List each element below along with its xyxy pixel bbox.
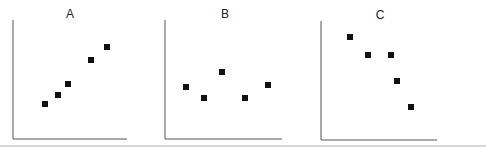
data-point-marker — [242, 95, 248, 101]
panel-a-title: A — [66, 7, 74, 21]
panel-b-title: B — [221, 7, 229, 21]
data-point-marker — [88, 57, 94, 63]
panel-b: B — [165, 7, 282, 139]
data-point-marker — [265, 82, 271, 88]
data-point-marker — [42, 101, 48, 107]
data-point-marker — [104, 44, 110, 50]
scatter-plot-panels: A B C — [0, 0, 486, 148]
data-point-marker — [408, 104, 414, 110]
data-point-marker — [365, 52, 371, 58]
data-point-marker — [394, 78, 400, 84]
axes — [321, 21, 437, 140]
data-point-marker — [219, 69, 225, 75]
data-point-marker — [55, 92, 61, 98]
axes — [13, 20, 127, 139]
axes — [165, 20, 282, 139]
data-point-marker — [183, 84, 189, 90]
panel-c-title: C — [376, 8, 385, 22]
data-point-marker — [388, 52, 394, 58]
data-point-marker — [65, 81, 71, 87]
panel-a: A — [13, 7, 127, 139]
data-point-marker — [201, 95, 207, 101]
panel-c: C — [321, 8, 437, 140]
data-point-marker — [347, 34, 353, 40]
